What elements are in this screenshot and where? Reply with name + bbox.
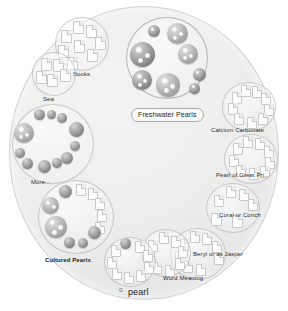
pearl-highlight [52,205,56,209]
pearl-node[interactable] [45,216,67,238]
pearl-highlight [138,83,142,87]
document-icon[interactable] [248,199,258,211]
pearl-highlight [143,79,147,83]
pearl-highlight [196,71,199,74]
pearl-highlight [58,225,63,230]
document-icon[interactable] [241,85,251,97]
query-prefix-label: G [119,286,123,294]
pearl-highlight [19,127,24,132]
document-icon[interactable] [47,74,58,87]
document-icon[interactable] [175,258,185,270]
cluster-label-cultured-pearls[interactable]: Cultured Pearls [45,256,91,264]
pearl-node[interactable] [148,25,160,37]
pearl-node[interactable] [38,160,51,173]
document-icon[interactable] [243,136,253,148]
cluster-label-sea[interactable]: Sea [43,95,54,103]
document-icon[interactable] [60,69,71,82]
document-icon[interactable] [87,49,98,62]
pearl-highlight [183,56,187,60]
cluster-label-pearl-of-great-price[interactable]: Pearl of Great Pri... [216,171,269,179]
document-icon[interactable] [190,231,200,243]
document-icon[interactable] [233,143,243,155]
pearl-highlight [138,58,143,63]
document-icon[interactable] [112,268,122,280]
document-icon[interactable] [136,270,146,282]
document-icon[interactable] [202,233,212,245]
cluster-label-beryl-or-as-jasper[interactable]: Beryl or as Jasper [193,250,243,258]
query-term-label[interactable]: pearl [128,288,149,296]
pearl-node[interactable] [193,68,206,81]
pearl-highlight [151,28,154,31]
document-icon[interactable] [36,71,47,84]
pearl-node[interactable] [14,123,34,143]
pearl-node[interactable] [189,83,200,94]
pearl-node[interactable] [34,109,45,120]
pearl-highlight [173,36,177,40]
pearl-node[interactable] [52,158,62,168]
document-icon[interactable] [41,58,52,71]
pearl-highlight [46,201,50,205]
document-icon[interactable] [226,186,236,198]
cluster-label-word-meaning[interactable]: Word Meaning [163,274,203,282]
document-icon[interactable] [258,113,268,125]
pearl-node[interactable] [61,152,73,164]
document-icon[interactable] [178,246,188,258]
cluster-map-canvas[interactable]: Books Sea Freshwater Pearls [0,0,288,311]
document-icon[interactable] [124,272,134,284]
pearl-highlight [137,74,142,79]
pearl-node[interactable] [42,197,59,214]
pearl-node[interactable] [59,185,72,198]
pearl-highlight [136,47,142,53]
pearl-highlight [162,78,168,84]
document-icon[interactable] [95,198,105,210]
pearl-node[interactable] [47,110,56,119]
cluster-label-freshwater-pearls[interactable]: Freshwater Pearls [131,108,204,122]
document-icon[interactable] [214,195,224,207]
document-icon[interactable] [159,232,169,244]
cluster-label-more[interactable]: More... [31,178,50,186]
pearl-highlight [25,133,29,137]
pearl-node[interactable] [15,148,25,158]
pearl-highlight [189,54,193,58]
cluster-label-calcium-carbonate[interactable]: Calcium Carbonate [211,126,264,134]
pearl-highlight [145,53,150,58]
pearl-highlight [172,27,177,32]
document-icon[interactable] [61,30,72,43]
cluster-label-coral-or-conch[interactable]: Coral or Conch [219,211,261,219]
pearl-highlight [50,220,55,225]
pearl-node[interactable] [70,141,80,151]
document-icon[interactable] [234,113,244,125]
document-icon[interactable] [111,245,121,257]
pearl-node[interactable] [132,70,152,90]
pearl-highlight [164,88,169,93]
pearl-highlight [19,135,23,139]
pearl-node[interactable] [120,238,131,249]
document-icon[interactable] [73,21,84,34]
pearl-node[interactable] [57,113,67,123]
pearl-highlight [183,48,188,53]
pearl-node[interactable] [178,44,198,64]
document-icon[interactable] [76,184,86,196]
pearl-node[interactable] [167,23,188,44]
pearl-node[interactable] [78,238,88,248]
document-icon[interactable] [143,250,153,262]
pearl-node[interactable] [130,42,155,67]
pearl-highlight [192,85,195,88]
pearl-node[interactable] [64,237,75,248]
pearl-node[interactable] [88,226,101,239]
pearl-node[interactable] [22,158,33,169]
pearl-node[interactable] [69,122,84,137]
document-icon[interactable] [97,210,107,222]
pearl-node[interactable] [156,73,180,97]
pearl-highlight [170,84,175,89]
document-icon[interactable] [74,40,85,53]
pearl-highlight [179,32,183,36]
pearl-highlight [52,230,57,235]
